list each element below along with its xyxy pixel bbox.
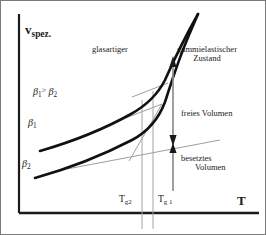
region-label-rubbery: gummielastischer Zustand [177,45,237,63]
beta-relation-note: β1> β2 [33,87,57,100]
tick-label-tg2-sub: g2 [125,198,132,205]
region-label-rubbery-line2: Zustand [193,53,220,63]
curve-label-beta2: β2 [22,159,31,172]
beta-relation-operator: > [42,86,47,95]
beta2-subscript: 2 [27,163,31,171]
x-axis-title: T [237,194,246,208]
tick-label-tg2: Tg2 [119,195,132,205]
y-axis-title: vspez. [25,23,51,39]
glass-transition-diagram: vspez. T glasartiger gummielastischer Zu… [0,0,266,235]
occupied-volume-label: besetztes Volumen [181,154,226,172]
beta-relation-sub-2: 2 [54,91,58,99]
beta1-subscript: 1 [33,122,37,130]
free-volume-label: freies Volumen [181,109,232,118]
beta1-curve [40,14,198,151]
y-axis-title-sub: spez. [32,29,51,39]
curve-label-beta1: β1 (fast cooling rate)β1 [28,118,37,131]
tick-label-tg1-sub: g 1 [164,198,173,205]
occupied-volume-label-line2: Volumen [195,163,226,172]
region-label-glassy: glasartiger [92,45,128,54]
tick-label-tg1: Tg 1 [158,195,172,205]
